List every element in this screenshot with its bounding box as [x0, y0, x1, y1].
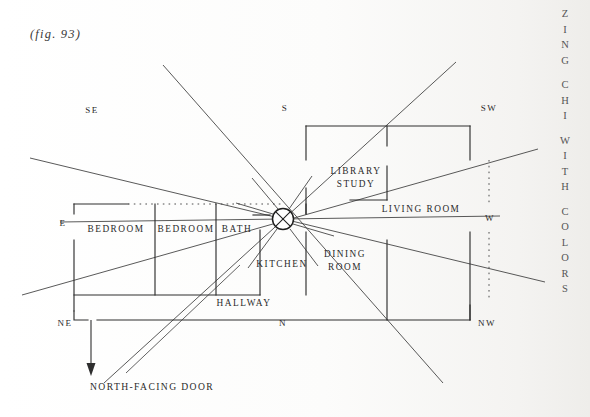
compass-label-e: E [60, 218, 67, 228]
room-label-living-room: LIVING ROOM [382, 204, 461, 214]
room-label-dining-line-2: ROOM [328, 262, 362, 272]
compass-label-s: S [282, 103, 288, 113]
compass-label-se: SE [85, 105, 98, 115]
house-outline [74, 126, 470, 320]
sector-line-horizontal-e [60, 219, 283, 222]
room-labels: BEDROOM BEDROOM BATH KITCHEN HALLWAY LIB… [88, 166, 461, 308]
center-node [273, 209, 294, 230]
compass-label-w: W [485, 213, 495, 223]
north-facing-door-caption: NORTH-FACING DOOR [90, 381, 214, 392]
room-label-study: STUDY [337, 179, 376, 189]
book-page: (fig. 93) Z I N G C H I W I T H C O L O … [0, 0, 590, 417]
compass-label-nw: NW [478, 318, 496, 328]
floor-plan-diagram: SE S SW E W NE N NW BEDROOM BEDROOM BATH… [0, 0, 590, 417]
room-label-bath: BATH [222, 224, 252, 234]
compass-label-sw: SW [481, 103, 497, 113]
door-leader-line [126, 265, 240, 373]
room-label-bedroom-2: BEDROOM [158, 224, 215, 234]
wall-bottom-left-corner [74, 311, 88, 320]
room-label-bedroom-1: BEDROOM [88, 224, 145, 234]
compass-label-ne: NE [58, 318, 73, 328]
room-label-hallway: HALLWAY [217, 298, 272, 308]
room-label-kitchen: KITCHEN [256, 259, 307, 269]
room-label-dining-line-1: DINING [324, 249, 366, 259]
sector-line-horizontal-w [283, 216, 500, 219]
compass-label-n: N [279, 318, 287, 328]
room-label-library: LIBRARY [331, 166, 382, 176]
door-arrow-head-icon [87, 363, 96, 376]
